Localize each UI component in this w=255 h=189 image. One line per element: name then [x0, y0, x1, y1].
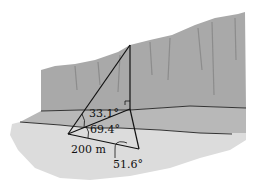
angle-label-33-1: 33.1° — [89, 107, 119, 120]
cliff-height-diagram: 33.1° 69.4° 200 m 51.6° — [0, 0, 255, 189]
baseline-length-label: 200 m — [71, 143, 106, 156]
cliff-face — [41, 12, 246, 111]
diagram-svg: 33.1° 69.4° 200 m 51.6° — [0, 0, 255, 189]
angle-label-51-6: 51.6° — [113, 158, 143, 171]
angle-label-69-4: 69.4° — [90, 123, 120, 136]
